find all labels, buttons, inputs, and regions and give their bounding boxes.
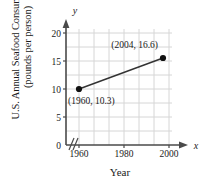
chart-figure: U.S. Annual Seafood Consumption (pounds … bbox=[0, 0, 210, 192]
data-point-2004 bbox=[160, 55, 166, 61]
x-axis bbox=[66, 142, 188, 149]
y-axis bbox=[63, 19, 70, 145]
x-tick-label-1960: 1960 bbox=[70, 149, 89, 159]
y-axis-letter: y bbox=[72, 5, 78, 16]
x-tick-label-1980: 1980 bbox=[115, 149, 134, 159]
y-tick-label-10: 10 bbox=[52, 85, 62, 95]
x-axis-title: Year bbox=[60, 166, 180, 178]
y-axis-arrow bbox=[63, 19, 70, 28]
data-line bbox=[79, 58, 163, 89]
x-tick-label-2000: 2000 bbox=[160, 149, 179, 159]
x-axis-arrow bbox=[179, 142, 188, 149]
y-tick-label-5: 5 bbox=[56, 113, 61, 123]
y-tick-label-0: 0 bbox=[56, 141, 61, 151]
y-tick-label-20: 20 bbox=[52, 29, 62, 39]
data-point-1960 bbox=[76, 86, 82, 92]
data-point-label-2004: (2004, 16.6) bbox=[111, 40, 158, 51]
y-tick-label-15: 15 bbox=[52, 57, 62, 67]
data-point-label-1960: (1960, 10.3) bbox=[68, 96, 115, 107]
x-axis-letter: x bbox=[193, 140, 199, 151]
plot-area: 20 15 10 5 0 1960 1980 2000 y x (2004, 1… bbox=[0, 0, 210, 192]
